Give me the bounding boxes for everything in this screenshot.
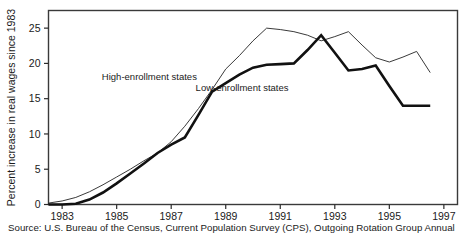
series-line-high-enrollment bbox=[49, 28, 431, 203]
series-annotation-low-enrollment: Low-enrollment states bbox=[196, 82, 289, 93]
y-axis-tick-label: 0 bbox=[35, 198, 41, 210]
y-axis-tick-label: 10 bbox=[29, 128, 41, 140]
y-axis-tick-label: 5 bbox=[35, 163, 41, 175]
chart-figure: 0510152025198319851987198919911993199519… bbox=[0, 0, 471, 241]
y-axis-title: Percent increase in real wages since 198… bbox=[5, 9, 17, 206]
series-line-low-enrollment bbox=[49, 35, 431, 204]
x-axis-tick-label: 1991 bbox=[269, 210, 293, 222]
x-axis-tick-label: 1993 bbox=[323, 210, 347, 222]
line-chart: 0510152025198319851987198919911993199519… bbox=[0, 0, 471, 241]
y-axis-tick-label: 20 bbox=[29, 57, 41, 69]
x-axis-tick-label: 1989 bbox=[214, 210, 238, 222]
x-axis-tick-label: 1985 bbox=[105, 210, 129, 222]
plot-frame bbox=[49, 11, 458, 205]
x-axis-tick-label: 1983 bbox=[50, 210, 74, 222]
x-axis-tick-label: 1995 bbox=[378, 210, 402, 222]
series-annotation-high-enrollment: High-enrollment states bbox=[102, 71, 197, 82]
x-axis-tick-label: 1987 bbox=[160, 210, 184, 222]
y-axis-tick-label: 25 bbox=[29, 22, 41, 34]
source-note: Source: U.S. Bureau of the Census, Curre… bbox=[8, 222, 455, 233]
y-axis-tick-label: 15 bbox=[29, 92, 41, 104]
x-axis-tick-label: 1997 bbox=[432, 210, 456, 222]
